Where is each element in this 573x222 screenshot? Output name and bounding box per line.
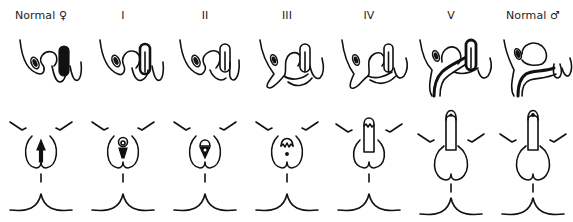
external-diagram-normal-female: [0, 110, 82, 222]
column-label: III: [246, 9, 328, 22]
column-stage-4: IV: [328, 0, 410, 222]
column-label: I: [82, 9, 164, 22]
column-normal-male: Normal ♂: [492, 0, 573, 222]
column-label: Normal ♀: [0, 9, 82, 22]
external-diagram-stage-4: [328, 110, 410, 222]
sagittal-diagram-normal-female: [0, 30, 82, 100]
column-stage-3: III: [246, 0, 328, 222]
sagittal-diagram-stage-3: [246, 30, 328, 100]
column-label: II: [164, 9, 246, 22]
column-stage-1: I: [82, 0, 164, 222]
column-label: IV: [328, 9, 410, 22]
sagittal-diagram-stage-2: [164, 30, 246, 100]
column-stage-2: II: [164, 0, 246, 222]
column-stage-5: V: [410, 0, 492, 222]
external-diagram-stage-5: [410, 110, 492, 222]
column-normal-female: Normal ♀: [0, 0, 82, 222]
column-label: Normal ♂: [492, 9, 573, 22]
sagittal-diagram-normal-male: [492, 30, 573, 100]
external-diagram-normal-male: [492, 110, 573, 222]
sagittal-diagram-stage-4: [328, 30, 410, 100]
external-diagram-stage-3: [246, 110, 328, 222]
sagittal-diagram-stage-5: [410, 30, 492, 100]
external-diagram-stage-2: [164, 110, 246, 222]
sagittal-diagram-stage-1: [82, 30, 164, 100]
external-diagram-stage-1: [82, 110, 164, 222]
column-label: V: [410, 9, 492, 22]
